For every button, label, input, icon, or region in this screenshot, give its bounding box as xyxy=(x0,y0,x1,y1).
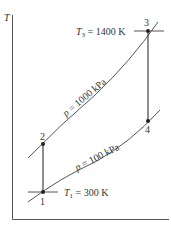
state-label-4: 4 xyxy=(145,124,150,135)
ts-diagram: T 1 2 3 4 T3 = 1400 K T1 = 300 K p = 100… xyxy=(0,0,171,229)
t1-label: T1 = 300 K xyxy=(64,187,109,200)
t3-label: T3 = 1400 K xyxy=(76,26,126,39)
state-point-1 xyxy=(41,190,45,194)
isobar-high-label: p = 1000 kPa xyxy=(59,76,108,120)
y-axis-label: T xyxy=(4,12,11,23)
isobar-low-label: p = 100 kPa xyxy=(72,141,121,173)
state-point-4 xyxy=(146,119,150,123)
state-label-2: 2 xyxy=(40,131,45,142)
state-label-1: 1 xyxy=(40,196,45,207)
state-label-3: 3 xyxy=(144,17,149,28)
state-point-2 xyxy=(41,142,45,146)
state-point-3 xyxy=(146,29,150,33)
